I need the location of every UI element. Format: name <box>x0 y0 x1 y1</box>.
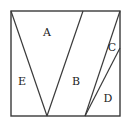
region-label-c: C <box>108 41 116 54</box>
region-label-d: D <box>104 92 113 105</box>
line-outer-diagonal <box>85 11 120 116</box>
line-v-left <box>11 11 47 116</box>
region-label-b: B <box>72 75 80 88</box>
region-label-e: E <box>18 75 26 88</box>
line-inner-diagonal <box>85 48 120 116</box>
line-v-right <box>47 11 83 116</box>
partitioned-square-diagram: A B C D E <box>0 0 128 126</box>
region-label-a: A <box>42 26 52 39</box>
